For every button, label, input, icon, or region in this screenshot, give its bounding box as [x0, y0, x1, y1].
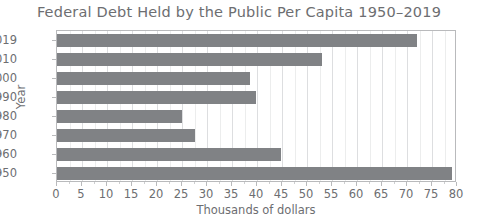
x-tick-mark-minor	[69, 182, 70, 184]
y-tick-mark	[52, 173, 56, 174]
x-tick-mark-minor	[244, 182, 245, 184]
bar-row	[57, 167, 456, 180]
x-tick-mark	[356, 182, 357, 186]
x-tick-mark	[381, 182, 382, 186]
x-tick-mark-minor	[369, 182, 370, 184]
x-tick-mark-minor	[419, 182, 420, 184]
x-tick-mark-minor	[94, 182, 95, 184]
y-tick-label-2019: 2019	[0, 33, 17, 47]
y-tick-mark	[52, 78, 56, 79]
x-tick-mark	[106, 182, 107, 186]
bar-row	[57, 110, 456, 123]
x-tick-mark	[306, 182, 307, 186]
plot-area	[56, 30, 456, 182]
bar-row	[57, 34, 456, 47]
x-tick-mark	[206, 182, 207, 186]
y-tick-mark	[52, 97, 56, 98]
bar-row	[57, 129, 456, 142]
bar-chart: Federal Debt Held by the Public Per Capi…	[0, 0, 478, 223]
bar-row	[57, 148, 456, 161]
y-tick-mark	[52, 40, 56, 41]
x-tick-mark	[131, 182, 132, 186]
x-tick-mark	[256, 182, 257, 186]
x-tick-mark	[56, 182, 57, 186]
chart-title: Federal Debt Held by the Public Per Capi…	[0, 4, 478, 20]
y-tick-label-2010: 2010	[0, 52, 17, 66]
y-tick-label-1950: 1950	[0, 166, 17, 180]
x-tick-label-80: 80	[441, 187, 471, 201]
x-tick-mark-minor	[119, 182, 120, 184]
y-tick-mark	[52, 154, 56, 155]
bar-1950	[57, 167, 452, 180]
x-tick-mark-minor	[294, 182, 295, 184]
x-tick-mark-minor	[169, 182, 170, 184]
bar-2010	[57, 53, 322, 66]
bar-row	[57, 72, 456, 85]
y-tick-label-1980: 1980	[0, 109, 17, 123]
y-tick-mark	[52, 116, 56, 117]
x-tick-mark-minor	[219, 182, 220, 184]
x-tick-mark-minor	[444, 182, 445, 184]
x-tick-mark-minor	[269, 182, 270, 184]
x-tick-mark-minor	[394, 182, 395, 184]
x-tick-mark	[81, 182, 82, 186]
y-tick-label-1960: 1960	[0, 147, 17, 161]
bar-1990	[57, 91, 256, 104]
y-tick-mark	[52, 135, 56, 136]
bar-2019	[57, 34, 417, 47]
y-tick-mark	[52, 59, 56, 60]
bar-1960	[57, 148, 281, 161]
x-tick-mark	[431, 182, 432, 186]
x-tick-mark-minor	[319, 182, 320, 184]
bar-row	[57, 53, 456, 66]
x-tick-mark-minor	[344, 182, 345, 184]
x-tick-mark	[456, 182, 457, 186]
x-tick-mark	[181, 182, 182, 186]
bar-1970	[57, 129, 195, 142]
bar-2000	[57, 72, 250, 85]
x-axis-title: Thousands of dollars	[56, 203, 456, 217]
x-tick-mark-minor	[144, 182, 145, 184]
bar-1980	[57, 110, 182, 123]
bar-row	[57, 91, 456, 104]
x-tick-mark-minor	[194, 182, 195, 184]
y-tick-label-1970: 1970	[0, 128, 17, 142]
x-tick-mark	[231, 182, 232, 186]
x-tick-mark	[331, 182, 332, 186]
x-tick-mark	[156, 182, 157, 186]
y-tick-label-1990: 1990	[0, 90, 17, 104]
x-tick-mark	[281, 182, 282, 186]
x-tick-mark	[406, 182, 407, 186]
y-tick-label-2000: 2000	[0, 71, 17, 85]
